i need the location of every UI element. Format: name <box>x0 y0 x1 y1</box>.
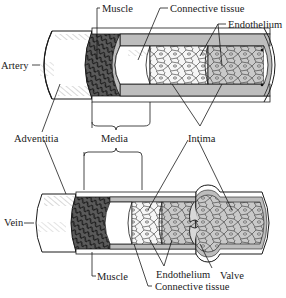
artery-endothelium-label: Endothelium <box>228 19 282 31</box>
vein-title-label: Vein <box>4 217 23 229</box>
adventitia-label: Adventitia <box>14 133 58 145</box>
blood-vessel-diagram <box>0 0 286 298</box>
artery-title-label: Artery <box>1 60 28 72</box>
artery-connective-tissue-label: Connective tissue <box>170 3 244 15</box>
vein-muscle-label: Muscle <box>97 271 128 283</box>
artery-illustration <box>40 28 275 102</box>
media-label: Media <box>101 133 128 145</box>
intima-label: Intima <box>188 133 215 145</box>
vein-illustration <box>36 185 269 262</box>
vein-connective-tissue-label: Connective tissue <box>155 281 229 293</box>
vein-endothelium-label: Endothelium <box>156 269 210 281</box>
artery-muscle-label: Muscle <box>102 3 133 15</box>
